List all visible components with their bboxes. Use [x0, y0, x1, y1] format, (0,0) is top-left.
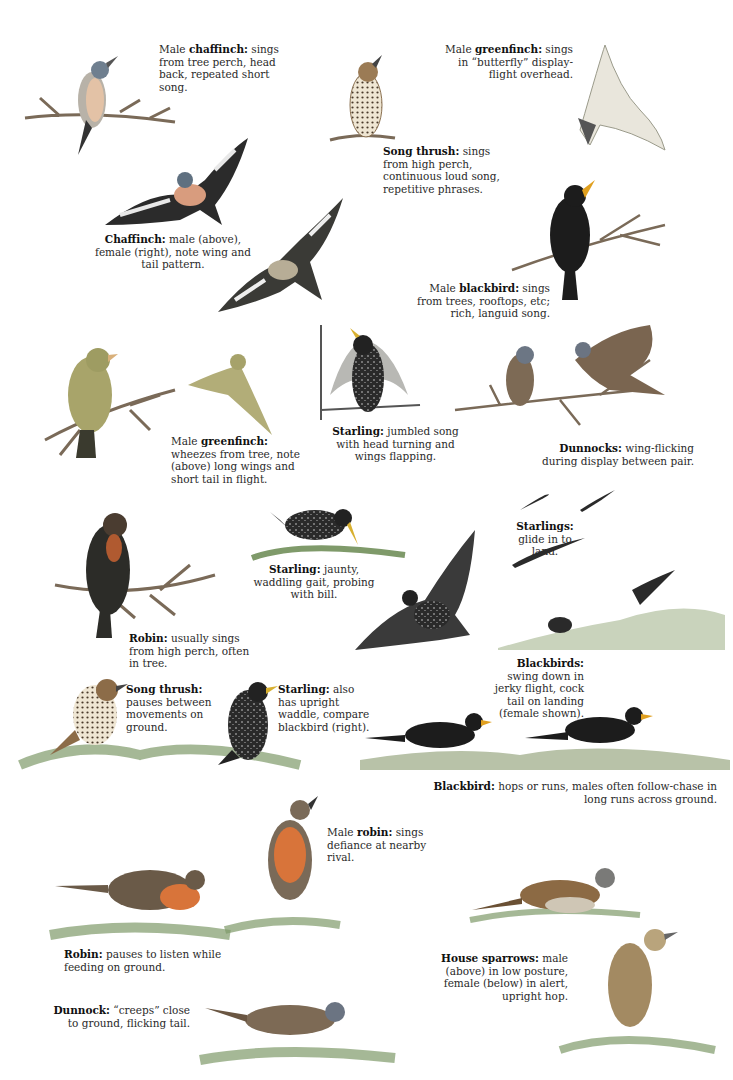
house-sparrows-illustration — [470, 868, 715, 1050]
blackbirds-ground-illustration — [360, 707, 730, 770]
robin-feeding-illustration — [50, 870, 230, 935]
robin-defiance-illustration — [225, 796, 340, 930]
starling-singing-illustration — [321, 325, 420, 420]
greenfinch-perched-illustration — [45, 348, 175, 458]
greenfinch-flight-illustration — [578, 45, 665, 150]
song-thrush-singing-illustration — [330, 55, 395, 140]
grass-landing-illustration — [498, 609, 725, 650]
starlings-gliding-illustration — [512, 490, 675, 605]
chaffinch-female-flight-illustration — [218, 198, 343, 312]
starling-flying-illustration — [355, 530, 475, 650]
chaffinch-singing-illustration — [25, 56, 175, 155]
robin-perched-illustration — [55, 513, 215, 638]
dunnocks-illustration — [455, 325, 665, 425]
chaffinch-male-flight-illustration — [105, 138, 248, 225]
dunnock-creeping-illustration — [200, 1002, 395, 1060]
blackbird-singing-illustration — [512, 180, 665, 300]
greenfinch-flying-illustration — [188, 354, 272, 435]
starling-probing-illustration — [252, 509, 405, 558]
bird-illustrations — [0, 0, 733, 1080]
